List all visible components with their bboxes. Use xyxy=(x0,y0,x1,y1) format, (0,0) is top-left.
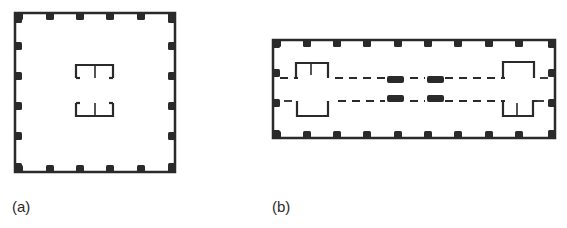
plan-b-interior-columns xyxy=(387,76,444,102)
column-icon xyxy=(333,39,341,47)
plan-a-square xyxy=(14,12,176,173)
column-icon xyxy=(14,163,22,171)
column-icon xyxy=(168,72,176,80)
column-icon xyxy=(454,131,462,139)
column-icon xyxy=(548,69,556,77)
figure-canvas xyxy=(0,0,567,228)
column-icon xyxy=(168,163,176,171)
column-icon xyxy=(137,165,145,173)
column-icon xyxy=(394,131,402,139)
plan-b-core-walls xyxy=(296,62,537,116)
column-icon xyxy=(76,12,84,20)
panel-a-label: (a) xyxy=(12,198,30,215)
column-icon xyxy=(548,130,556,138)
column-icon xyxy=(454,39,462,47)
column-icon xyxy=(548,99,556,107)
column-icon xyxy=(168,42,176,50)
column-icon xyxy=(303,131,311,139)
column-icon xyxy=(106,165,114,173)
column-icon xyxy=(333,131,341,139)
panel-b-label: (b) xyxy=(272,198,290,215)
plan-a-core-walls xyxy=(76,65,113,116)
plan-b-outline xyxy=(273,40,555,138)
column-icon xyxy=(303,39,311,47)
column-icon xyxy=(14,102,22,110)
column-icon xyxy=(106,12,114,20)
column-icon xyxy=(14,42,22,50)
plan-b-perimeter-columns xyxy=(272,39,556,139)
column-icon xyxy=(46,12,54,20)
column-icon xyxy=(515,131,523,139)
column-icon xyxy=(46,165,54,173)
column-icon xyxy=(14,15,22,23)
column-icon xyxy=(515,39,523,47)
plan-b-rectangle xyxy=(272,39,556,139)
plan-b-corridor-lines xyxy=(280,78,550,101)
column-icon xyxy=(14,72,22,80)
column-icon xyxy=(363,39,371,47)
column-icon xyxy=(168,15,176,23)
column-icon xyxy=(485,39,493,47)
column-icon xyxy=(272,69,280,77)
column-icon xyxy=(272,130,280,138)
column-icon xyxy=(272,40,280,48)
column-icon xyxy=(137,12,145,20)
column-icon xyxy=(168,132,176,140)
column-icon xyxy=(548,40,556,48)
plan-a-outline xyxy=(15,13,175,172)
column-icon xyxy=(14,132,22,140)
column-icon xyxy=(76,165,84,173)
column-icon xyxy=(168,102,176,110)
column-icon xyxy=(272,99,280,107)
plan-a-perimeter-columns xyxy=(14,12,176,173)
column-icon xyxy=(485,131,493,139)
column-icon xyxy=(424,39,432,47)
column-icon xyxy=(363,131,371,139)
column-icon xyxy=(394,39,402,47)
column-icon xyxy=(424,131,432,139)
